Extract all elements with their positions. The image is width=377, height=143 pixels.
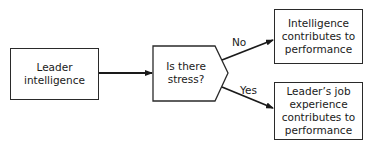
node-text-line: performance [282, 124, 355, 137]
node-experience-performance: Leader’s job experience contributes to p… [274, 82, 363, 140]
edge-label-yes: Yes [240, 84, 257, 96]
node-text-line: performance [282, 43, 355, 56]
node-text-line: stress? [155, 73, 217, 86]
node-text-line: contributes to [282, 111, 355, 124]
edge-label-no: No [232, 36, 246, 48]
node-leader-intelligence: Leader intelligence [10, 48, 99, 100]
node-intelligence-performance: Intelligence contributes to performance [274, 9, 363, 64]
node-text-line: Leader [24, 61, 85, 74]
node-text-line: Leader’s job [282, 85, 355, 98]
node-text-line: Is there [155, 60, 217, 73]
arrow-no [222, 40, 273, 60]
node-text-line: intelligence [24, 74, 85, 87]
node-text-line: Intelligence [282, 17, 355, 30]
node-stress-text: Is there stress? [155, 60, 217, 86]
node-text-line: contributes to [282, 30, 355, 43]
node-text-line: experience [282, 98, 355, 111]
